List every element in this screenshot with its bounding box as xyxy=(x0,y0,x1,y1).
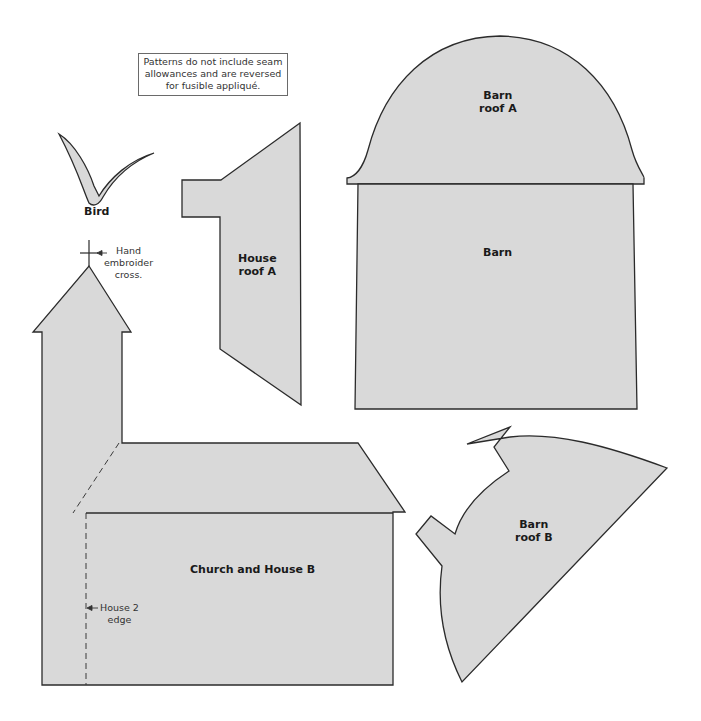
label-text: Bird xyxy=(84,205,109,218)
pattern-note: Patterns do not include seam allowances … xyxy=(138,53,288,96)
annotation-text: edge xyxy=(100,614,139,626)
annotation-text: embroider xyxy=(104,257,153,269)
house-roof-a-label: House roof A xyxy=(238,252,277,278)
label-text: Barn xyxy=(483,246,512,259)
cross-icon xyxy=(80,240,98,266)
label-text: roof A xyxy=(238,265,277,278)
annotation-text: Hand xyxy=(104,245,153,257)
label-text: roof A xyxy=(479,102,517,115)
annotation-text: cross. xyxy=(104,269,153,281)
cross-annotation: Hand embroider cross. xyxy=(104,245,153,281)
annotation-text: House 2 xyxy=(100,602,139,614)
barn-roof-b-shape xyxy=(416,427,667,682)
house2-edge-annotation: House 2 edge xyxy=(100,602,139,626)
church-house-b-shape xyxy=(33,266,405,685)
barn-shape xyxy=(355,184,637,409)
label-text: House xyxy=(238,252,277,265)
label-text: roof B xyxy=(515,531,553,544)
barn-roof-b-label: Barn roof B xyxy=(515,518,553,544)
barn-label: Barn xyxy=(483,246,512,259)
bird-shape xyxy=(59,134,154,205)
church-house-b-label: Church and House B xyxy=(190,563,315,576)
bird-label: Bird xyxy=(84,205,109,218)
label-text: Barn xyxy=(515,518,553,531)
note-line: for fusible appliqué. xyxy=(139,80,287,92)
note-line: allowances and are reversed xyxy=(139,68,287,80)
label-text: Barn xyxy=(479,89,517,102)
barn-roof-a-label: Barn roof A xyxy=(479,89,517,115)
label-text: Church and House B xyxy=(190,563,315,576)
note-line: Patterns do not include seam xyxy=(139,56,287,68)
